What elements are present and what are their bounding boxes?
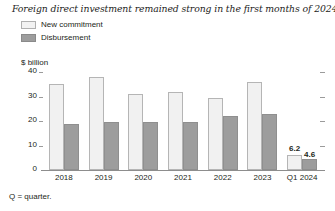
bar	[247, 82, 262, 170]
y-tick-label-30: 30	[21, 91, 37, 100]
bar-group	[84, 72, 124, 170]
x-axis-baseline	[41, 170, 325, 171]
x-axis-label: 2022	[203, 173, 243, 182]
bar-group	[203, 72, 243, 170]
x-axis-label: 2018	[44, 173, 84, 182]
y-tick-mark-left-30	[39, 97, 43, 98]
bar	[223, 116, 238, 170]
bar	[183, 122, 198, 170]
legend-swatch-disbursement	[21, 34, 36, 42]
bar	[89, 77, 104, 170]
bar	[208, 98, 223, 170]
legend-item-disbursement: Disbursement	[21, 32, 103, 43]
chart-title: Foreign direct investment remained stron…	[12, 3, 330, 15]
y-tick-mark-left-10	[39, 146, 43, 147]
legend-label-new-commitment: New commitment	[41, 20, 103, 29]
bar: 4.6	[302, 159, 317, 170]
legend-swatch-new-commitment	[21, 21, 36, 29]
bar	[64, 124, 79, 170]
bar	[262, 114, 277, 170]
bar-group	[44, 72, 84, 170]
bar-group: 6.24.6	[282, 72, 322, 170]
bar	[104, 122, 119, 171]
x-axis-label: Q1 2024	[282, 173, 322, 182]
y-tick-mark-left-40	[39, 72, 43, 73]
bar	[168, 92, 183, 170]
x-axis-label: 2023	[243, 173, 283, 182]
bar	[143, 122, 158, 170]
x-axis-label: 2021	[163, 173, 203, 182]
chart-legend: New commitment Disbursement	[21, 19, 103, 45]
y-tick-mark-left-20	[39, 121, 43, 122]
bar	[49, 84, 64, 170]
legend-label-disbursement: Disbursement	[41, 33, 90, 42]
bar-group	[163, 72, 203, 170]
bar-group	[243, 72, 283, 170]
bar	[128, 94, 143, 170]
bar: 6.2	[287, 155, 302, 170]
x-axis-labels: 201820192020202120222023Q1 2024	[44, 173, 322, 182]
chart-footnote: Q = quarter.	[9, 192, 51, 201]
bar-value-label: 4.6	[304, 150, 315, 159]
y-tick-label-20: 20	[21, 115, 37, 124]
bar-group	[123, 72, 163, 170]
bar-groups: 6.24.6	[44, 72, 322, 170]
legend-item-new-commitment: New commitment	[21, 19, 103, 30]
bar-value-label: 6.2	[289, 144, 300, 153]
x-axis-label: 2020	[123, 173, 163, 182]
chart-figure: Foreign direct investment remained stron…	[0, 0, 335, 211]
plot-area: 40 30 20 10 0 6.24.6	[21, 72, 326, 170]
y-tick-label-0: 0	[21, 164, 37, 173]
y-tick-label-40: 40	[21, 66, 37, 75]
x-axis-label: 2019	[84, 173, 124, 182]
y-tick-label-10: 10	[21, 140, 37, 149]
